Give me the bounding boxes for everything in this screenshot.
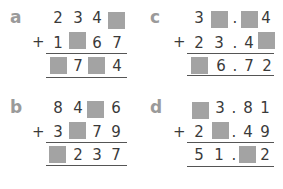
- bottom-line: [187, 75, 274, 76]
- decimal-point: .: [231, 56, 239, 76]
- digit: 7: [88, 122, 106, 142]
- blank-box[interactable]: [192, 102, 209, 119]
- blank-box[interactable]: [241, 11, 258, 28]
- bottom-line: [187, 166, 274, 167]
- decimal-point: .: [231, 8, 239, 28]
- problem-label: a: [10, 7, 21, 27]
- digit: 6: [88, 33, 106, 53]
- digit: 3: [210, 33, 228, 53]
- plus-sign: +: [173, 32, 186, 52]
- blank-box[interactable]: [108, 12, 125, 29]
- digit: 2: [49, 8, 67, 28]
- bottom-line: [46, 165, 127, 166]
- digit: 2: [69, 145, 87, 165]
- digit: 2: [190, 33, 208, 53]
- bottom-line: [46, 77, 127, 78]
- blank-box[interactable]: [211, 11, 228, 28]
- blank-box[interactable]: [50, 57, 67, 74]
- digit: 4: [239, 122, 257, 142]
- digit: 9: [256, 122, 274, 142]
- digit: 2: [190, 122, 208, 142]
- digit: 1: [49, 33, 67, 53]
- sum-line: [187, 142, 274, 143]
- digit: 8: [49, 98, 67, 118]
- digit: 7: [240, 56, 258, 76]
- digit: 6: [212, 56, 230, 76]
- plus-sign: +: [173, 122, 186, 142]
- decimal-point: .: [231, 33, 239, 53]
- decimal-point: .: [230, 145, 238, 165]
- digit: 4: [108, 56, 126, 76]
- sum-line: [46, 142, 127, 143]
- blank-box[interactable]: [258, 32, 275, 49]
- digit: 2: [258, 56, 276, 76]
- problem-label: c: [150, 7, 160, 27]
- sum-line: [46, 53, 127, 54]
- digit: 3: [211, 98, 229, 118]
- digit: 4: [69, 98, 87, 118]
- plus-sign: +: [32, 122, 45, 142]
- decimal-point: .: [230, 98, 238, 118]
- blank-box[interactable]: [239, 146, 256, 163]
- blank-box[interactable]: [87, 101, 104, 118]
- blank-box[interactable]: [69, 32, 86, 49]
- digit: 7: [108, 33, 126, 53]
- blank-box[interactable]: [69, 122, 86, 139]
- blank-box[interactable]: [88, 57, 105, 74]
- problem-b: b 8 4 6 + 3 7 9 2 3 7: [0, 95, 141, 189]
- digit: 9: [107, 122, 125, 142]
- digit: 7: [107, 145, 125, 165]
- digit: 4: [88, 8, 106, 28]
- digit: 4: [257, 8, 275, 28]
- blank-box[interactable]: [191, 57, 208, 74]
- blank-box[interactable]: [212, 122, 229, 139]
- sum-line: [187, 53, 274, 54]
- blank-box[interactable]: [49, 146, 66, 163]
- digit: 1: [210, 145, 228, 165]
- digit: 3: [49, 122, 67, 142]
- digit: 3: [88, 145, 106, 165]
- digit: 5: [190, 145, 208, 165]
- digit: 6: [107, 98, 125, 118]
- digit: 4: [240, 33, 258, 53]
- digit: 8: [239, 98, 257, 118]
- digit: 3: [69, 8, 87, 28]
- decimal-point: .: [230, 122, 238, 142]
- digit: 3: [190, 8, 208, 28]
- problem-label: d: [150, 97, 162, 117]
- digit: 2: [256, 145, 274, 165]
- digit: 7: [69, 56, 87, 76]
- plus-sign: +: [32, 32, 45, 52]
- problem-a: a 2 3 4 + 1 6 7 7 4: [0, 0, 141, 94]
- problem-c: c 3 . 4 + 2 3 . 4 6 . 7 2: [141, 0, 282, 94]
- problem-label: b: [10, 97, 22, 117]
- digit: 1: [256, 98, 274, 118]
- problem-d: d 3 . 8 1 + 2 . 4 9 5 1 . 2: [141, 95, 282, 189]
